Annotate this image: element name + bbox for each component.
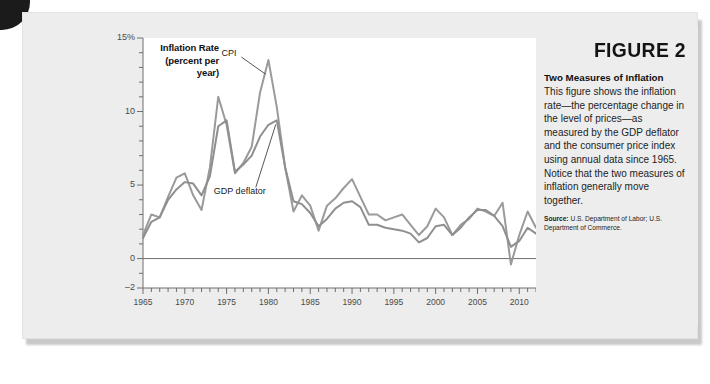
x-tick-label: 1970 (167, 297, 203, 307)
caption-body: This figure shows the inflation rate—the… (544, 85, 686, 207)
caption-source: Source: U.S. Department of Labor; U.S. D… (544, 215, 686, 232)
caption-title: Two Measures of Inflation (544, 71, 686, 84)
y-tick-label: 15% (95, 32, 135, 42)
chart-axes (137, 38, 536, 294)
chart-panel: Inflation Rate (percent per year) 15%105… (121, 26, 536, 326)
y-tick-label: 5 (95, 179, 135, 189)
series-label-cpi: CPI (221, 48, 236, 58)
inflation-line-chart (121, 26, 536, 326)
caption-source-label: Source: (544, 215, 569, 222)
figure-number-heading: FIGURE 2 (555, 38, 686, 62)
y-tick-label: –2 (95, 282, 135, 292)
x-tick-label: 1980 (250, 297, 286, 307)
x-tick-label: 1965 (125, 297, 161, 307)
series-label-gdp-deflator: GDP deflator (214, 186, 266, 196)
figure-card: Inflation Rate (percent per year) 15%105… (22, 12, 698, 339)
x-tick-label: 2005 (459, 297, 495, 307)
caption-panel: FIGURE 2 Two Measures of Inflation This … (536, 26, 698, 326)
figure-screenshot: Inflation Rate (percent per year) 15%105… (0, 0, 710, 384)
chart-series-group (143, 60, 536, 264)
x-tick-label: 2010 (501, 297, 537, 307)
x-tick-label: 1995 (376, 297, 412, 307)
x-tick-label: 2000 (418, 297, 454, 307)
x-tick-label: 1975 (209, 297, 245, 307)
x-tick-label: 1990 (334, 297, 370, 307)
y-tick-label: 10 (95, 106, 135, 116)
x-tick-label: 1985 (292, 297, 328, 307)
y-tick-label: 0 (95, 253, 135, 263)
